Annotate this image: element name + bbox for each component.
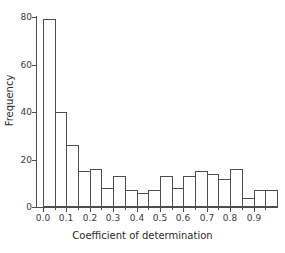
x-axis-minor-tick xyxy=(242,208,243,210)
x-axis-minor-tick xyxy=(55,208,56,210)
y-axis-tick xyxy=(32,65,36,66)
y-axis-tick-label: 0 xyxy=(26,203,32,212)
x-axis-minor-tick xyxy=(125,208,126,210)
histogram-bar xyxy=(265,190,278,207)
histogram-figure: 020406080 0.00.10.20.30.40.50.60.70.80.9… xyxy=(0,0,285,253)
x-axis-tick xyxy=(254,208,255,212)
x-axis-tick-label: 0.3 xyxy=(101,214,125,223)
x-axis-tick xyxy=(230,208,231,212)
x-axis-minor-tick xyxy=(265,208,266,210)
x-axis-minor-tick xyxy=(195,208,196,210)
x-axis-title: Coefficient of determination xyxy=(0,230,285,241)
x-axis-tick-label: 0.8 xyxy=(218,214,242,223)
x-axis-tick xyxy=(90,208,91,212)
x-axis-minor-tick xyxy=(101,208,102,210)
x-axis-minor-tick xyxy=(78,208,79,210)
y-axis-tick xyxy=(32,160,36,161)
x-axis-tick-label: 0.9 xyxy=(242,214,266,223)
x-axis-tick xyxy=(160,208,161,212)
x-axis-tick xyxy=(183,208,184,212)
x-axis-tick-label: 0.4 xyxy=(125,214,149,223)
x-axis-minor-tick xyxy=(218,208,219,210)
y-axis-tick xyxy=(32,207,36,208)
y-axis-tick-label: 80 xyxy=(21,13,32,22)
plot-area xyxy=(37,17,277,207)
x-axis-tick xyxy=(207,208,208,212)
y-axis-tick-label: 20 xyxy=(21,156,32,165)
y-axis-title: Frequency xyxy=(4,41,15,161)
y-axis-tick-label: 40 xyxy=(21,108,32,117)
x-axis-tick xyxy=(43,208,44,212)
x-axis-tick-label: 0.7 xyxy=(195,214,219,223)
y-axis-tick xyxy=(32,112,36,113)
x-axis-tick-label: 0.6 xyxy=(171,214,195,223)
x-axis-tick-label: 0.2 xyxy=(78,214,102,223)
x-axis-tick-label: 0.5 xyxy=(148,214,172,223)
y-axis-tick-label: 60 xyxy=(21,61,32,70)
x-axis-tick xyxy=(113,208,114,212)
x-axis-tick-label: 0.0 xyxy=(31,214,55,223)
y-axis-tick xyxy=(32,17,36,18)
x-axis-tick xyxy=(66,208,67,212)
x-axis-minor-tick xyxy=(172,208,173,210)
x-axis-tick-label: 0.1 xyxy=(54,214,78,223)
x-axis-tick xyxy=(137,208,138,212)
x-axis-minor-tick xyxy=(148,208,149,210)
